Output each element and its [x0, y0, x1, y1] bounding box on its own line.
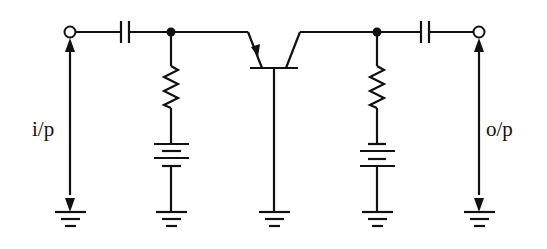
- circuit-diagram: i/p: [0, 0, 547, 249]
- emitter-resistor: [164, 32, 178, 144]
- collector-bias-battery: [360, 144, 395, 212]
- output-label: o/p: [486, 117, 513, 141]
- input-signal-arrow: [65, 38, 75, 212]
- ground-input: [55, 212, 86, 226]
- output-signal-arrow: [474, 38, 484, 212]
- emitter-bias-battery: [154, 144, 189, 212]
- output-terminal: [474, 27, 485, 38]
- ground-emitter: [156, 212, 187, 226]
- input-coupling-capacitor: [121, 21, 129, 43]
- input-label: i/p: [32, 117, 54, 141]
- transistor: [248, 32, 300, 212]
- collector-resistor: [370, 32, 384, 144]
- output-coupling-capacitor: [421, 21, 429, 43]
- ground-output: [464, 212, 495, 226]
- collector-lead: [286, 32, 300, 68]
- ground-base: [259, 212, 290, 226]
- input-terminal: [65, 27, 76, 38]
- ground-collector: [362, 212, 393, 226]
